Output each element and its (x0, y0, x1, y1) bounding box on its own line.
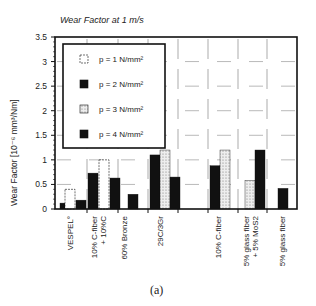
bar-black (278, 188, 288, 209)
x-category-label: 10% C-fiber (90, 216, 99, 259)
bars-group (60, 150, 288, 209)
bar-black (128, 194, 138, 209)
bar-black (170, 177, 180, 209)
bar-black (255, 150, 265, 209)
bar-dotted (245, 180, 255, 209)
x-category-label: 10% C-fiber (214, 216, 223, 259)
y-tick-label: 1 (42, 155, 47, 165)
bar-black (76, 200, 86, 209)
wear-factor-chart: Wear Factor at 1 m/s 00.511.522.533.5 We… (0, 0, 316, 306)
legend-swatch (80, 130, 88, 138)
bar-black (150, 155, 160, 209)
y-tick-label: 3 (42, 57, 47, 67)
legend-swatch (80, 105, 88, 113)
legend-label: p = 1 N/mm² (99, 55, 144, 64)
y-tick-label: 2.5 (35, 81, 47, 91)
legend-label: p = 3 N/mm² (99, 105, 144, 114)
x-category-label: 5% glass fiber (278, 216, 287, 267)
legend: p = 1 N/mm²p = 2 N/mm²p = 3 N/mm²p = 4 N… (63, 44, 165, 148)
legend-swatch (80, 80, 88, 88)
bar-black (110, 178, 120, 209)
x-category-label: + 5% MoS2 (251, 215, 260, 257)
x-category-label: + 10%C (99, 216, 108, 245)
bar-black (210, 166, 220, 209)
x-category-label: 29C/3Gr (156, 216, 165, 247)
x-category-label: 60% Bronze (120, 215, 129, 259)
chart-title: Wear Factor at 1 m/s (60, 15, 144, 25)
y-tick-label: 0 (42, 204, 47, 214)
y-axis-label: Wear Factor [10⁻⁶ mm³/Nm] (9, 99, 19, 206)
bar-dotted (220, 150, 230, 209)
figure-caption: (a) (150, 283, 163, 297)
bar-white (99, 160, 109, 209)
bar-white (65, 189, 75, 209)
legend-swatch (80, 55, 88, 63)
legend-label: p = 4 N/mm² (99, 130, 144, 139)
y-tick-label: 2 (42, 106, 47, 116)
x-category-labels: VESPEL°10% C-fiber+ 10%C60% Bronze29C/3G… (66, 215, 287, 266)
x-category-label: 5% glass fiber (242, 216, 251, 267)
bar-black (88, 173, 98, 209)
y-axis-ticks: 00.511.522.533.5 (35, 32, 55, 214)
legend-label: p = 2 N/mm² (99, 80, 144, 89)
y-tick-label: 0.5 (35, 179, 47, 189)
bar-dotted (160, 150, 170, 209)
y-tick-label: 1.5 (35, 130, 47, 140)
x-category-label: VESPEL° (66, 216, 75, 250)
y-tick-label: 3.5 (35, 32, 47, 42)
